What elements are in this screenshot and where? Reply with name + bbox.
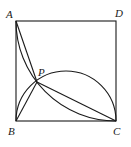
segment-ap — [16, 21, 37, 82]
label-p: P — [38, 67, 45, 78]
label-d: D — [115, 8, 123, 19]
label-b: B — [8, 126, 15, 137]
diagram-canvas — [0, 0, 131, 147]
segment-bp — [16, 82, 37, 121]
geometry-diagram: A D B C P — [0, 0, 131, 147]
label-a: A — [6, 9, 13, 20]
label-c: C — [113, 126, 120, 137]
